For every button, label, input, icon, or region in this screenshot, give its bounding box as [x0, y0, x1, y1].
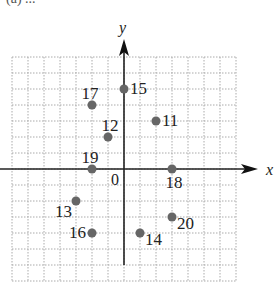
- point-label-20: 20: [177, 214, 194, 233]
- point-13: [72, 197, 81, 206]
- point-label-13: 13: [55, 202, 72, 221]
- point-label-19: 19: [82, 148, 99, 167]
- point-label-14: 14: [145, 230, 163, 249]
- point-label-11: 11: [162, 111, 178, 130]
- x-axis-label: x: [265, 161, 273, 178]
- point-16: [88, 229, 97, 238]
- point-label-12: 12: [102, 116, 119, 135]
- point-11: [152, 117, 161, 126]
- point-label-15: 15: [130, 79, 147, 98]
- point-15: [120, 85, 129, 94]
- origin-label: 0: [111, 171, 119, 188]
- point-label-16: 16: [69, 223, 86, 242]
- coordinate-plane: x y 0 15171112191813161420: [0, 0, 279, 288]
- y-axis-label: y: [117, 19, 127, 37]
- point-label-17: 17: [82, 84, 100, 103]
- point-14: [136, 229, 145, 238]
- axes: x y 0: [0, 19, 273, 265]
- point-label-18: 18: [166, 173, 183, 192]
- point-20: [168, 213, 177, 222]
